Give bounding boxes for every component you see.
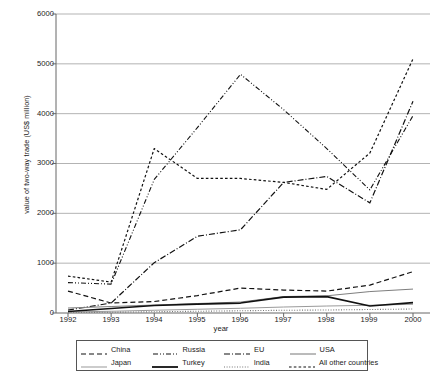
dashed-line-swatch — [81, 345, 107, 355]
x-tick-marks — [68, 313, 413, 317]
legend-item-russia[interactable]: Russia — [153, 343, 225, 356]
series-lines — [68, 59, 413, 313]
legend-label-india: India — [254, 358, 270, 367]
legend-row-2: Japan Turkey India All other countries — [77, 356, 367, 369]
legend-label-turkey: Turkey — [182, 358, 204, 367]
short-dash-line-swatch — [289, 358, 315, 368]
dotted-line-swatch — [224, 358, 250, 368]
thick-solid-line-swatch — [152, 358, 178, 368]
gridlines — [56, 14, 430, 263]
legend-label-russia: Russia — [183, 345, 206, 354]
plot-area — [0, 0, 442, 382]
legend-item-turkey[interactable]: Turkey — [152, 356, 223, 369]
legend-label-china: China — [111, 345, 130, 354]
series-line-china — [68, 272, 413, 303]
legend-label-japan: Japan — [111, 358, 131, 367]
legend-row-1: China Russia EU USA — [77, 343, 367, 356]
thin-solid-line-swatch — [290, 345, 316, 355]
dash-dot-line-swatch — [224, 345, 250, 355]
legend-item-usa[interactable]: USA — [290, 343, 367, 356]
legend-item-all-other-countries[interactable]: All other countries — [289, 356, 367, 369]
series-line-turkey — [68, 297, 413, 312]
legend: China Russia EU USA — [76, 340, 368, 371]
legend-item-japan[interactable]: Japan — [77, 356, 152, 369]
legend-label-all-other-countries: All other countries — [319, 358, 378, 367]
line-chart: value of two-way trade (US$ million) 600… — [0, 0, 442, 382]
legend-label-eu: EU — [254, 345, 264, 354]
thin-solid-line-swatch — [81, 358, 107, 368]
legend-label-usa: USA — [320, 345, 335, 354]
series-line-all-other-countries — [68, 59, 413, 282]
dash-dot-dot-line-swatch — [153, 345, 179, 355]
y-tick-marks — [52, 14, 56, 313]
series-line-eu — [68, 101, 413, 310]
series-line-russia — [68, 74, 413, 284]
legend-item-india[interactable]: India — [224, 356, 289, 369]
legend-item-eu[interactable]: EU — [224, 343, 290, 356]
legend-item-china[interactable]: China — [77, 343, 153, 356]
